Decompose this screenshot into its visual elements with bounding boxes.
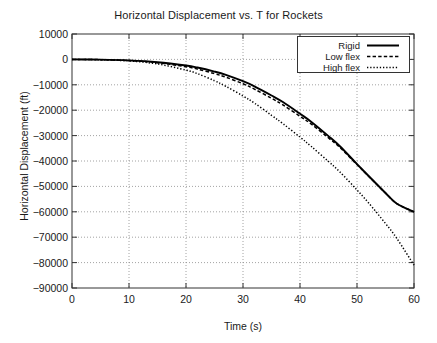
- y-tick-label: −40000: [8, 156, 68, 166]
- legend-label: Rigid: [298, 40, 365, 51]
- y-tick-label: −60000: [8, 207, 68, 217]
- y-tick-label: −50000: [8, 181, 68, 191]
- chart-figure: Horizontal Displacement vs. T for Rocket…: [0, 0, 437, 343]
- y-tick-label: 0: [8, 54, 68, 64]
- legend-item-low-flex[interactable]: Low flex: [298, 51, 411, 62]
- legend-label: Low flex: [298, 51, 365, 62]
- legend-line-sample: [365, 40, 411, 51]
- y-tick-label: −30000: [8, 131, 68, 141]
- y-tick-label: −10000: [8, 80, 68, 90]
- legend-item-rigid[interactable]: Rigid: [298, 40, 411, 51]
- legend-line-sample: [365, 51, 411, 62]
- series-line-high-flex: [72, 59, 414, 265]
- x-tick-label: 30: [223, 294, 263, 304]
- y-tick-label: 10000: [8, 29, 68, 39]
- y-tick-label: −80000: [8, 258, 68, 268]
- y-tick-label: −20000: [8, 105, 68, 115]
- y-tick-label: −90000: [8, 283, 68, 293]
- x-tick-label: 20: [166, 294, 206, 304]
- x-tick-label: 50: [337, 294, 377, 304]
- legend-label: High flex: [298, 62, 365, 73]
- legend-item-high-flex[interactable]: High flex: [298, 62, 411, 73]
- x-tick-label: 60: [394, 294, 434, 304]
- x-tick-label: 10: [109, 294, 149, 304]
- data-series: [72, 59, 414, 265]
- chart-legend: RigidLow flexHigh flex: [297, 36, 410, 73]
- legend-line-sample: [365, 62, 411, 73]
- x-tick-label: 0: [52, 294, 92, 304]
- x-tick-label: 40: [280, 294, 320, 304]
- y-tick-label: −70000: [8, 232, 68, 242]
